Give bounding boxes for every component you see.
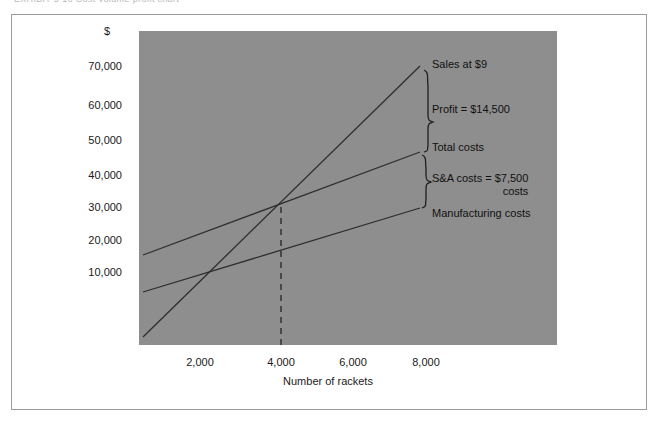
y-tick-10000: 10,000 [56, 266, 122, 278]
sa-costs-brace [422, 155, 431, 208]
exhibit-caption: EXHIBIT 5-10 Cost-volume-profit chart [14, 0, 614, 4]
annotation-profit: Profit = $14,500 [432, 103, 510, 116]
y-tick-30000: 30,000 [56, 201, 122, 213]
annotation-sa-costs: S&A costs = $7,500 costs [432, 172, 528, 198]
annotation-manufacturing-costs: Manufacturing costs [432, 207, 530, 220]
y-tick-50000: 50,000 [56, 134, 122, 146]
x-tick-6000: 6,000 [323, 356, 383, 368]
y-axis-title: $ [104, 25, 110, 37]
y-tick-40000: 40,000 [56, 169, 122, 181]
cvp-chart-figure: EXHIBIT 5-10 Cost-volume-profit chart $ … [0, 0, 656, 426]
annotation-sales-at-9: Sales at $9 [432, 58, 487, 71]
y-tick-20000: 20,000 [56, 234, 122, 246]
y-tick-60000: 60,000 [56, 99, 122, 111]
total-costs-line [143, 152, 420, 255]
x-axis-title: Number of rackets [0, 375, 656, 387]
annotation-total-costs: Total costs [432, 141, 484, 154]
annotation-sa-costs-line2: costs [432, 185, 528, 198]
x-tick-4000: 4,000 [251, 356, 311, 368]
annotation-sa-costs-line1: S&A costs = $7,500 [432, 172, 528, 184]
x-tick-8000: 8,000 [396, 356, 456, 368]
y-tick-70000: 70,000 [56, 60, 122, 72]
x-tick-2000: 2,000 [170, 356, 230, 368]
